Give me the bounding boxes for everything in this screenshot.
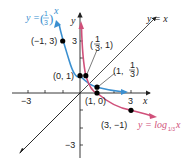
svg-text:(1,: (1,	[113, 66, 124, 76]
svg-text:(: (	[90, 40, 93, 50]
label-3-neg1: (3, −1)	[101, 120, 127, 130]
point-third-1	[83, 73, 88, 78]
svg-text:, 1): , 1)	[100, 40, 113, 50]
x-tick-label-neg3: −3	[21, 96, 31, 106]
y-axis-label: y	[70, 15, 76, 26]
svg-text:y = log: y = log	[137, 119, 167, 130]
label-third-1: ( 1 3 , 1)	[90, 34, 113, 53]
label-neg1-3: (−1, 3)	[31, 36, 57, 46]
point-1-third	[94, 85, 99, 90]
svg-text:x: x	[175, 119, 181, 130]
logarithm-arrow-up-icon	[79, 21, 85, 29]
graph-canvas: −3 3 x 3 −3 y (−1, 3) (0, 1) (1, 0) (3, …	[0, 0, 191, 161]
svg-text:1/3: 1/3	[168, 126, 175, 132]
logarithm-label: y = log 1/3 x	[137, 119, 181, 132]
svg-text:x: x	[53, 5, 59, 16]
point-neg1-3	[60, 38, 65, 43]
label-1-third: (1, 1 3 )	[113, 60, 139, 79]
y-axis: 3 −3 y	[65, 13, 83, 158]
leader-third-1	[87, 50, 97, 74]
label-0-1: (0, 1)	[53, 71, 74, 81]
svg-text:): )	[49, 11, 53, 26]
label-1-0: (1, 0)	[85, 96, 106, 106]
svg-text:1: 1	[44, 10, 48, 17]
x-tick-label-3: 3	[128, 96, 133, 106]
svg-text:y =: y =	[25, 12, 40, 23]
svg-text:3: 3	[44, 19, 48, 26]
svg-text:3: 3	[130, 69, 135, 79]
point-3-neg1	[128, 108, 133, 113]
x-axis-label: x	[142, 95, 148, 106]
identity-label: y = x	[146, 13, 168, 24]
point-0-1	[77, 73, 82, 78]
exponential-label: y = ( 1 3 ) x	[25, 5, 59, 26]
y-tick-label-3: 3	[72, 36, 77, 46]
svg-text:): )	[136, 66, 139, 76]
point-1-0	[94, 90, 99, 95]
exponential-arrow-right-icon	[121, 89, 128, 95]
identity-arrow-icon	[19, 148, 24, 154]
y-tick-label-neg3: −3	[65, 140, 75, 150]
